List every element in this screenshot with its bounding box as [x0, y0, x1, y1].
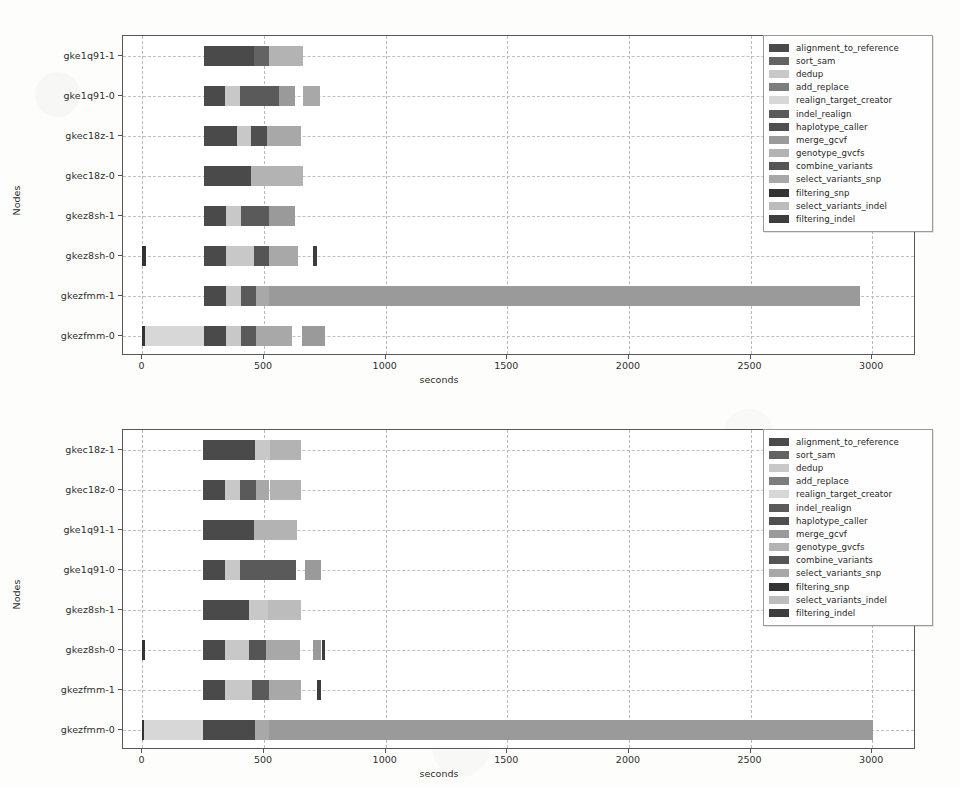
bar-row — [123, 246, 914, 267]
bar-segment-select_variants_snp — [266, 640, 300, 661]
legend-item-indel_realign[interactable]: indel_realign — [769, 107, 926, 120]
x-tick-mark — [385, 355, 386, 359]
legend-item-filtering_indel[interactable]: filtering_indel — [769, 212, 926, 225]
y-tick-label-gkez8sh-1: gkez8sh-1 — [0, 210, 115, 221]
legend-label: genotype_gvcfs — [796, 542, 864, 552]
x-tick-mark — [628, 355, 629, 359]
x-tick-label: 2500 — [737, 360, 761, 371]
x-tick-label: 500 — [254, 360, 272, 371]
legend-item-combine_variants[interactable]: combine_variants — [769, 554, 926, 567]
x-tick-mark — [141, 355, 142, 359]
legend-swatch-icon — [769, 569, 789, 577]
x-tick-mark — [506, 749, 507, 753]
legend-label: combine_variants — [796, 161, 873, 171]
legend-swatch-icon — [769, 162, 789, 170]
bar-row — [123, 326, 914, 347]
legend-label: realign_target_creator — [796, 489, 892, 499]
legend-item-select_variants_indel[interactable]: select_variants_indel — [769, 593, 926, 606]
legend-item-sort_sam[interactable]: sort_sam — [769, 54, 926, 67]
legend-item-genotype_gvcfs[interactable]: genotype_gvcfs — [769, 541, 926, 554]
legend-item-haplotype_caller[interactable]: haplotype_caller — [769, 120, 926, 133]
x-tick-label: 2000 — [616, 360, 640, 371]
bar-segment-dedup — [226, 326, 241, 347]
legend-swatch-icon — [769, 438, 789, 446]
bar-segment-merge_gcvf — [269, 206, 295, 227]
x-tick-label: 0 — [138, 754, 144, 765]
legend-item-realign_target_creator[interactable]: realign_target_creator — [769, 94, 926, 107]
bar-segment-sort_sam — [254, 46, 269, 67]
bar-segment-filtering_indel — [313, 246, 317, 267]
x-tick-mark — [628, 749, 629, 753]
bar-segment-merge_gcvf — [305, 560, 322, 581]
y-tick-mark — [118, 649, 123, 650]
legend-item-filtering_indel[interactable]: filtering_indel — [769, 606, 926, 619]
legend-label: combine_variants — [796, 555, 873, 565]
legend-label: sort_sam — [796, 450, 835, 460]
y-tick-mark — [118, 55, 123, 56]
y-tick-mark — [118, 335, 123, 336]
legend-swatch-icon — [769, 609, 789, 617]
legend-item-merge_gcvf[interactable]: merge_gcvf — [769, 133, 926, 146]
y-tick-mark — [118, 215, 123, 216]
legend-label: filtering_indel — [796, 608, 855, 618]
bar-segment-dedup — [225, 640, 249, 661]
bar-segment-merge_gcvf — [302, 326, 325, 347]
y-tick-label-gke1q91-1: gke1q91-1 — [0, 50, 115, 61]
bar-segment-combine_variants — [254, 246, 269, 267]
legend-item-alignment_to_reference[interactable]: alignment_to_reference — [769, 435, 926, 448]
legend-swatch-icon — [769, 96, 789, 104]
bar-row — [123, 640, 914, 661]
legend-swatch-icon — [769, 70, 789, 78]
bar-segment-dedup — [225, 480, 240, 501]
bar-segment-alignment_to_reference — [203, 480, 225, 501]
legend-item-alignment_to_reference[interactable]: alignment_to_reference — [769, 41, 926, 54]
legend-swatch-icon — [769, 189, 789, 197]
legend-label: indel_realign — [796, 503, 852, 513]
bar-segment-filtering_snp — [142, 246, 145, 267]
bar-segment-alignment_to_reference — [204, 246, 226, 267]
bar-segment-select_variants_snp — [267, 126, 301, 147]
legend-swatch-icon — [769, 583, 789, 591]
legend-item-indel_realign[interactable]: indel_realign — [769, 501, 926, 514]
bar-segment-alignment_to_reference — [203, 560, 225, 581]
x-tick-label: 1000 — [373, 360, 397, 371]
legend-top: alignment_to_referencesort_samdedupadd_r… — [763, 35, 933, 232]
legend-item-select_variants_indel[interactable]: select_variants_indel — [769, 199, 926, 212]
y-tick-label-gkezfmm-1: gkezfmm-1 — [0, 684, 115, 695]
legend-item-combine_variants[interactable]: combine_variants — [769, 160, 926, 173]
legend-item-select_variants_snp[interactable]: select_variants_snp — [769, 173, 926, 186]
bar-segment-alignment_to_reference — [203, 600, 248, 621]
y-tick-mark — [118, 255, 123, 256]
bar-segment-dedup — [226, 286, 241, 307]
y-tick-mark — [118, 609, 123, 610]
bar-segment-filtering_indel — [317, 680, 320, 701]
legend-item-dedup[interactable]: dedup — [769, 67, 926, 80]
x-tick-mark — [263, 749, 264, 753]
legend-label: realign_target_creator — [796, 95, 892, 105]
y-tick-label-gke1q91-0: gke1q91-0 — [0, 564, 115, 575]
legend-swatch-icon — [769, 504, 789, 512]
legend-item-merge_gcvf[interactable]: merge_gcvf — [769, 527, 926, 540]
x-axis-label-top: seconds — [0, 374, 960, 385]
legend-item-filtering_snp[interactable]: filtering_snp — [769, 186, 926, 199]
legend-item-haplotype_caller[interactable]: haplotype_caller — [769, 514, 926, 527]
legend-label: filtering_snp — [796, 188, 850, 198]
legend-item-select_variants_snp[interactable]: select_variants_snp — [769, 567, 926, 580]
legend-item-add_replace[interactable]: add_replace — [769, 475, 926, 488]
bar-segment-alignment_to_reference — [203, 680, 225, 701]
legend-item-realign_target_creator[interactable]: realign_target_creator — [769, 488, 926, 501]
x-tick-label: 0 — [138, 360, 144, 371]
bar-segment-alignment_to_reference — [204, 126, 238, 147]
legend-item-dedup[interactable]: dedup — [769, 461, 926, 474]
legend-label: select_variants_indel — [796, 201, 887, 211]
legend-item-sort_sam[interactable]: sort_sam — [769, 448, 926, 461]
legend-swatch-icon — [769, 490, 789, 498]
legend-label: dedup — [796, 463, 823, 473]
bar-segment-merge_gcvf — [269, 720, 873, 741]
x-tick-label: 2000 — [616, 754, 640, 765]
legend-item-genotype_gvcfs[interactable]: genotype_gvcfs — [769, 147, 926, 160]
bar-segment-merge_gcvf — [279, 86, 296, 107]
legend-item-add_replace[interactable]: add_replace — [769, 81, 926, 94]
legend-label: haplotype_caller — [796, 122, 868, 132]
legend-item-filtering_snp[interactable]: filtering_snp — [769, 580, 926, 593]
